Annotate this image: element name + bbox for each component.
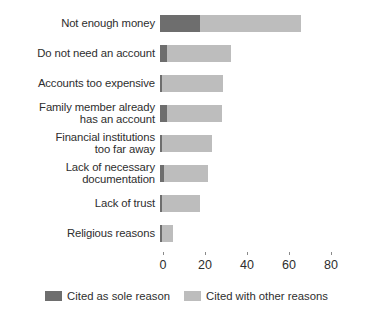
category-label: Family member already has an account [0, 101, 160, 125]
bar-row: Lack of trust [0, 192, 373, 214]
bar-row: Religious reasons [0, 222, 373, 244]
bar-segment-other [162, 225, 173, 242]
bar-row: Do not need an account [0, 42, 373, 64]
legend-item-other[interactable]: Cited with other reasons [184, 290, 328, 302]
bar-segment-other [162, 195, 200, 212]
bar-row: Lack of necessary documentation [0, 162, 373, 184]
legend-swatch-sole [45, 291, 62, 301]
chart-legend: Cited as sole reason Cited with other re… [0, 290, 373, 302]
x-axis-tick [331, 252, 332, 255]
stacked-bar [160, 225, 373, 242]
stacked-bar [160, 165, 373, 182]
bar-row: Accounts too expensive [0, 72, 373, 94]
bar-chart: Not enough moneyDo not need an accountAc… [0, 0, 373, 320]
bar-segment-other [200, 15, 301, 32]
x-axis-tick-label: 40 [240, 258, 254, 272]
stacked-bar [160, 45, 373, 62]
bar-segment-sole [160, 45, 167, 62]
category-label: Lack of trust [0, 197, 160, 209]
category-label: Financial institutions too far away [0, 131, 160, 155]
x-axis: 020406080 [163, 255, 348, 256]
bar-segment-sole [160, 15, 200, 32]
bar-row: Financial institutions too far away [0, 132, 373, 154]
x-axis-tick [205, 252, 206, 255]
legend-label-sole: Cited as sole reason [67, 290, 170, 302]
legend-label-other: Cited with other reasons [206, 290, 328, 302]
legend-swatch-other [184, 291, 201, 301]
category-label: Lack of necessary documentation [0, 161, 160, 185]
category-label: Accounts too expensive [0, 77, 160, 89]
x-axis-tick [163, 252, 164, 255]
x-axis-tick-label: 60 [282, 258, 296, 272]
bar-segment-other [164, 165, 208, 182]
stacked-bar [160, 15, 373, 32]
bar-row: Not enough money [0, 12, 373, 34]
bar-segment-other [162, 135, 212, 152]
plot-area: Not enough moneyDo not need an accountAc… [0, 8, 373, 248]
x-axis-tick [247, 252, 248, 255]
bar-segment-other [167, 105, 222, 122]
bar-segment-sole [160, 105, 167, 122]
x-axis-tick [289, 252, 290, 255]
stacked-bar [160, 75, 373, 92]
stacked-bar [160, 135, 373, 152]
bar-segment-other [167, 45, 231, 62]
x-axis-tick-label: 20 [198, 258, 212, 272]
bar-segment-other [162, 75, 223, 92]
stacked-bar [160, 105, 373, 122]
x-axis-tick-label: 80 [324, 258, 338, 272]
x-axis-tick-label: 0 [160, 258, 167, 272]
legend-item-sole[interactable]: Cited as sole reason [45, 290, 170, 302]
category-label: Religious reasons [0, 227, 160, 239]
category-label: Do not need an account [0, 47, 160, 59]
bar-row: Family member already has an account [0, 102, 373, 124]
stacked-bar [160, 195, 373, 212]
category-label: Not enough money [0, 17, 160, 29]
